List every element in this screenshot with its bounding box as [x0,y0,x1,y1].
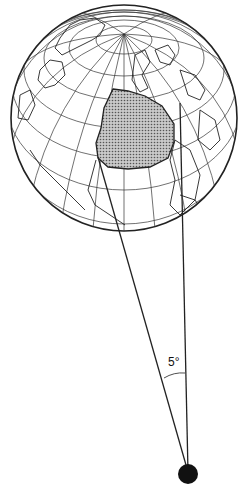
angle-label: 5° [168,355,180,369]
diagram-canvas: 5° [0,0,247,493]
angle-arc [164,373,185,378]
observer-point [178,464,198,484]
satellite-view-diagram: 5° [0,0,247,493]
